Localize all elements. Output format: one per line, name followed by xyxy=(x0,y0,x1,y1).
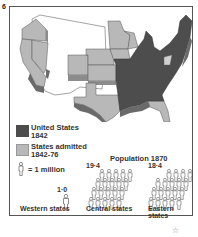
scale-key: = 1 million xyxy=(18,162,65,176)
legend-item-admitted: States admitted 1842-76 xyxy=(16,143,87,159)
value-eastern: 18·4 xyxy=(148,162,162,169)
region-label-central: Central states xyxy=(86,205,132,212)
state-kansas xyxy=(88,65,116,81)
legend-label-year: 1842 xyxy=(31,132,79,140)
legend-item-us-1842: United States 1842 xyxy=(16,124,79,140)
figure-number: 6 xyxy=(2,3,6,10)
value-central: 19·4 xyxy=(86,162,100,169)
legend-label-years: 1842-76 xyxy=(31,151,87,159)
figure-frame: United States 1842 States admitted 1842-… xyxy=(9,6,193,216)
swatch-admitted xyxy=(16,144,29,156)
state-florida xyxy=(148,101,170,122)
us-1842-region xyxy=(114,15,192,111)
region-label-western: Western states xyxy=(20,205,70,212)
swatch-us-1842 xyxy=(16,125,29,137)
us-map xyxy=(10,7,194,122)
value-western: 1·0 xyxy=(57,186,67,193)
state-minnesota xyxy=(108,21,130,49)
state-colorado xyxy=(68,55,88,75)
state-nebraska xyxy=(86,49,114,65)
person-icon xyxy=(18,162,24,176)
asterisk-mark: ☆ xyxy=(172,226,179,235)
region-label-eastern: Eastern states xyxy=(148,205,192,219)
scale-label: = 1 million xyxy=(28,165,65,174)
